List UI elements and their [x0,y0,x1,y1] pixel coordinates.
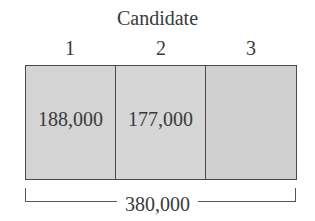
candidate-cell-3 [206,66,296,179]
candidate-cell-2: 177,000 [116,66,206,179]
candidate-label-2: 2 [116,37,206,60]
candidate-votes-1: 188,000 [26,108,115,131]
vote-box: 188,000 177,000 [25,65,297,180]
candidate-votes-2: 177,000 [116,108,205,131]
candidate-label-3: 3 [206,37,296,60]
diagram-title: Candidate [0,7,315,30]
total-value: 380,000 [117,193,198,215]
candidate-cell-1: 188,000 [26,66,116,179]
total-label: 380,000 [0,193,315,216]
candidate-label-1: 1 [25,37,115,60]
